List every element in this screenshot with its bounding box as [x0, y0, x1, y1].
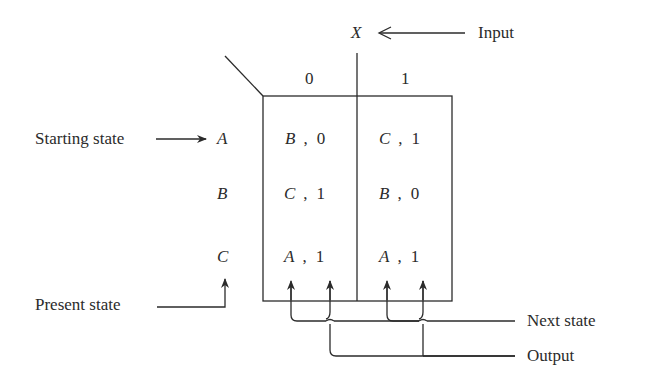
column-header-0: 0 [305, 70, 314, 87]
output-label: Output [527, 347, 574, 364]
present-state-label: Present state [35, 296, 120, 313]
cell-a-0: B,0 [285, 130, 325, 147]
next-state-connector-col1 [387, 283, 419, 321]
output-value: 1 [317, 184, 326, 203]
cell-separator: , [303, 129, 307, 148]
cell-a-1: C,1 [379, 130, 420, 147]
row-state-b: B [217, 185, 227, 202]
cell-separator: , [397, 247, 401, 266]
column-header-1: 1 [401, 70, 410, 87]
next-state-value: A [379, 247, 389, 266]
input-variable: X [351, 24, 361, 41]
next-state-value: C [284, 184, 295, 203]
cell-c-1: A,1 [379, 248, 419, 265]
output-value: 0 [317, 129, 326, 148]
next-state-value: B [379, 184, 389, 203]
cell-c-0: A,1 [284, 248, 324, 265]
next-state-label: Next state [527, 312, 595, 329]
cell-separator: , [398, 129, 402, 148]
row-state-a: A [217, 130, 227, 147]
cell-separator: , [303, 184, 307, 203]
cell-separator: , [397, 184, 401, 203]
corner-diagonal [225, 56, 263, 96]
present-state-arrow [157, 279, 225, 307]
output-value: 1 [411, 247, 420, 266]
cell-b-1: B,0 [379, 185, 419, 202]
row-state-c: C [217, 248, 228, 265]
input-label: Input [478, 24, 514, 41]
next-state-value: A [284, 247, 294, 266]
output-value: 0 [411, 184, 420, 203]
cell-b-0: C,1 [284, 185, 325, 202]
next-state-connector-col0 [291, 283, 326, 321]
starting-state-label: Starting state [35, 130, 124, 147]
next-state-value: C [379, 129, 390, 148]
next-state-value: B [285, 129, 295, 148]
output-value: 1 [412, 129, 421, 148]
cell-separator: , [302, 247, 306, 266]
output-value: 1 [316, 247, 325, 266]
